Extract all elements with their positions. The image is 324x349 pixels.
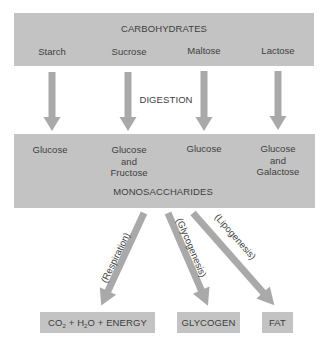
galactose-label: Galactose: [252, 166, 304, 178]
glucose-and-galactose: Glucose and Galactose: [252, 143, 304, 178]
digestion-arrow-sucrose: [120, 72, 137, 131]
glucose-from-starch: Glucose: [28, 144, 72, 156]
digestion-arrow-starch: [44, 72, 61, 131]
glucose-label: Glucose: [33, 144, 68, 155]
digestion-arrow-maltose: [196, 71, 213, 131]
respiration-product-label: CO2 + H2O + ENERGY: [40, 317, 155, 333]
glucose-label: Glucose: [104, 144, 154, 156]
glucose-from-maltose: Glucose: [180, 143, 228, 155]
co-text: CO: [48, 317, 62, 328]
plus-h-text: + H: [66, 317, 84, 328]
and-label: and: [104, 156, 154, 168]
glucose-label: Glucose: [187, 143, 222, 154]
monosaccharides-title: MONOSACCHARIDES: [108, 186, 218, 198]
glucose-and-fructose: Glucose and Fructose: [104, 144, 154, 179]
o-energy-text: O + ENERGY: [88, 317, 147, 328]
fructose-label: Fructose: [104, 167, 154, 179]
digestion-label: DIGESTION: [136, 94, 196, 106]
digestion-arrow-lactose: [270, 71, 287, 130]
glucose-label: Glucose: [252, 143, 304, 155]
respiration-arrow: [93, 209, 152, 309]
glycogen-label: GLYCOGEN: [177, 317, 240, 329]
and-label: and: [252, 155, 304, 167]
fat-label: FAT: [262, 317, 293, 329]
